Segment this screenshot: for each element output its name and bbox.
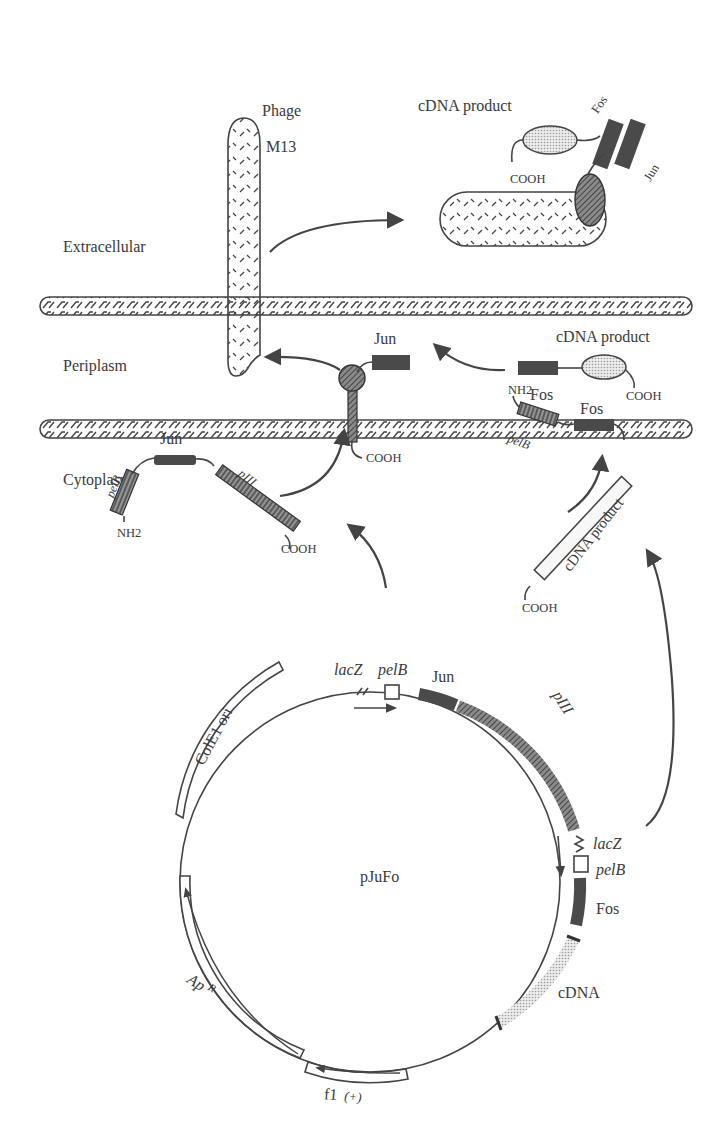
- arrow-fos-to-jun: [436, 346, 505, 370]
- pjufo-phage-display-diagram: Extracellular Periplasm Cytoplasm Phage …: [0, 0, 715, 1144]
- plasmid-cdna-label: cDNA: [558, 984, 600, 1001]
- periplasm-cdna-product-label: cDNA product: [556, 328, 650, 346]
- arrow-jun-export: [280, 432, 344, 496]
- phage-m13-assembling: [228, 118, 260, 376]
- fos-fusion-title: Fos: [580, 400, 603, 417]
- plasmid-cdna-insert: [498, 940, 573, 1023]
- jun-fusion-title: Jun: [160, 430, 182, 447]
- plasmid-lacz-pelb-right: [574, 836, 588, 872]
- plasmid-f1-label: f1 (+): [324, 1085, 363, 1105]
- plasmid-pelb-right-label: pelB: [595, 861, 626, 879]
- jun-piii-membrane-anchored: [339, 355, 410, 458]
- periplasm-jun-label: Jun: [374, 330, 396, 347]
- fos-cdna-product-periplasm: [518, 355, 634, 388]
- plasmid-jun-gene: [419, 694, 456, 705]
- jun-fos-dimer-displayed: [592, 119, 645, 170]
- compartment-extracellular: Extracellular: [63, 238, 146, 255]
- displayed-cooh-label: COOH: [510, 172, 545, 186]
- displayed-jun-label: Jun: [641, 161, 662, 184]
- fos-fusion-nh2-label: NH2: [508, 383, 532, 397]
- plasmid-apr-gene: [180, 876, 304, 1058]
- plasmid-pelb-top-label: pelB: [377, 661, 408, 679]
- arrow-to-displayed-phage: [270, 220, 400, 252]
- arrow-plasmid-to-fos: [646, 552, 674, 826]
- plasmid-cole1-ori: [176, 662, 283, 818]
- plasmid-fos-gene: [576, 878, 580, 925]
- outer-membrane: [40, 297, 692, 315]
- plasmid-f1-name: f1: [324, 1085, 338, 1103]
- compartment-periplasm: Periplasm: [63, 357, 128, 375]
- plasmid-lacz-top-label: lacZ: [334, 661, 364, 678]
- piii-domain-displayed: [575, 174, 605, 226]
- plasmid-piii-label: pIII: [548, 687, 577, 718]
- plasmid-fos-label: Fos: [596, 900, 619, 917]
- displayed-cdna-product-label: cDNA product: [418, 97, 512, 115]
- plasmid-cole1-label: ColE1 ori: [191, 704, 236, 768]
- phage-label-line1: Phage: [262, 102, 301, 120]
- phage-label-line2: M13: [266, 138, 296, 155]
- periplasm-fos-label: Fos: [530, 386, 553, 403]
- cdna-product-displayed: [523, 126, 577, 154]
- jun-fusion-cooh-label: COOH: [281, 542, 316, 556]
- plasmid-f1-strand: (+): [344, 1089, 362, 1105]
- fos-fusion-cooh-label: COOH: [522, 601, 557, 615]
- plasmid-jun-label: Jun: [432, 668, 454, 685]
- displayed-fos-label: Fos: [588, 93, 610, 116]
- arrow-jun-to-phage: [268, 357, 340, 370]
- periplasm-fos-cooh-label: COOH: [626, 389, 661, 403]
- plasmid-name-label: pJuFo: [360, 868, 399, 886]
- jun-fusion-nh2-label: NH2: [117, 526, 141, 540]
- arrow-plasmid-to-jun: [350, 526, 386, 588]
- plasmid-lacz-right-label: lacZ: [593, 835, 623, 852]
- periplasm-jun-cooh-label: COOH: [366, 451, 401, 465]
